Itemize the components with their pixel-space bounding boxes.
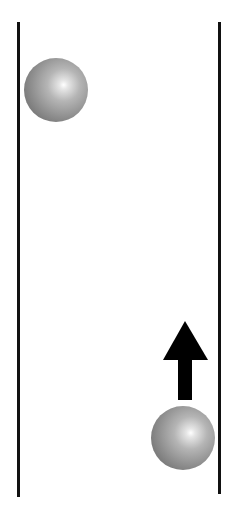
arrow-head — [163, 321, 208, 360]
lower-sphere — [151, 406, 215, 470]
arrow-shaft — [178, 359, 192, 400]
